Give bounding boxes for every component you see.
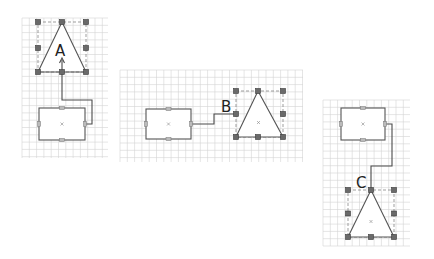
diagram-canvas: A B <box>0 0 434 259</box>
resize-handle[interactable] <box>392 188 397 193</box>
resize-handle[interactable] <box>84 20 89 25</box>
resize-handle[interactable] <box>346 211 351 216</box>
port-right[interactable] <box>190 122 193 127</box>
panel-b: B <box>120 70 303 162</box>
resize-handle[interactable] <box>346 188 351 193</box>
resize-handle[interactable] <box>346 235 351 240</box>
resize-handle[interactable] <box>36 20 41 25</box>
resize-handle[interactable] <box>234 112 239 117</box>
port-top[interactable] <box>361 107 366 110</box>
resize-handle[interactable] <box>60 20 65 25</box>
resize-handle[interactable] <box>256 89 261 94</box>
panel-a: A <box>22 18 108 158</box>
resize-handle[interactable] <box>281 112 286 117</box>
resize-handle[interactable] <box>369 188 374 193</box>
panel-c-label: C <box>356 174 366 192</box>
resize-handle[interactable] <box>84 46 89 51</box>
port-right[interactable] <box>84 122 87 127</box>
resize-handle[interactable] <box>392 235 397 240</box>
port-left[interactable] <box>38 122 41 127</box>
port-left[interactable] <box>145 122 148 127</box>
resize-handle[interactable] <box>281 89 286 94</box>
resize-handle[interactable] <box>256 135 261 140</box>
resize-handle[interactable] <box>36 70 41 75</box>
resize-handle[interactable] <box>36 46 41 51</box>
port-bottom[interactable] <box>60 139 65 142</box>
resize-handle[interactable] <box>234 89 239 94</box>
resize-handle[interactable] <box>281 135 286 140</box>
resize-handle[interactable] <box>392 211 397 216</box>
port-top[interactable] <box>60 107 65 110</box>
port-left[interactable] <box>340 122 343 127</box>
port-bottom[interactable] <box>361 139 366 142</box>
panel-c: C <box>323 100 410 246</box>
resize-handle[interactable] <box>234 135 239 140</box>
resize-handle[interactable] <box>369 235 374 240</box>
port-right[interactable] <box>384 122 387 127</box>
panel-c-triangle[interactable] <box>348 190 394 237</box>
panel-a-label: A <box>55 42 66 60</box>
port-bottom[interactable] <box>166 138 171 141</box>
panel-b-label: B <box>221 98 231 116</box>
resize-handle[interactable] <box>84 70 89 75</box>
port-top[interactable] <box>166 108 171 111</box>
resize-handle[interactable] <box>60 70 65 75</box>
